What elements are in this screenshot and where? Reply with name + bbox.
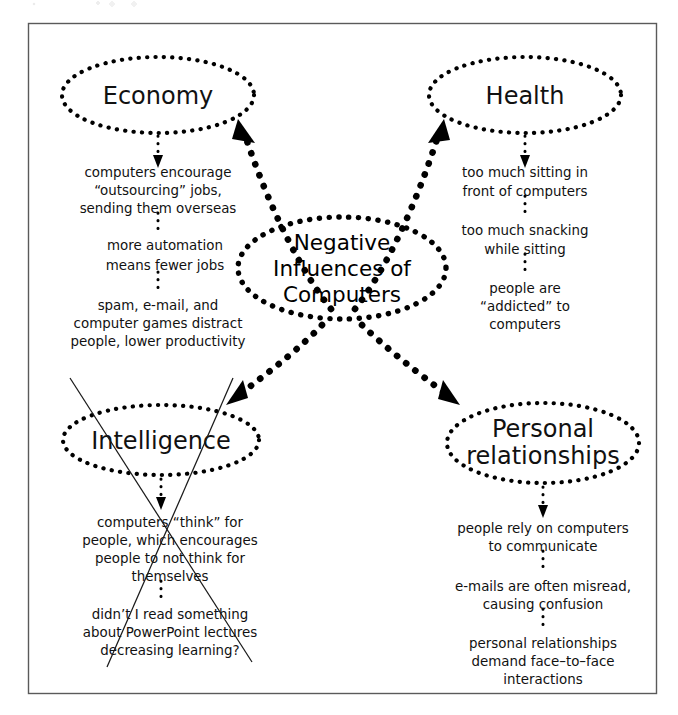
svg-text:to communicate: to communicate bbox=[488, 539, 597, 554]
center-label-line1: Negative bbox=[294, 230, 391, 255]
svg-text:people, which encourages: people, which encourages bbox=[82, 533, 257, 548]
node-label-economy: Economy bbox=[103, 82, 214, 110]
svg-text:front of computers: front of computers bbox=[463, 184, 588, 199]
node-label-personal-line2: relationships bbox=[466, 442, 620, 470]
svg-text:interactions: interactions bbox=[503, 672, 582, 687]
svg-text:“addicted” to: “addicted” to bbox=[480, 299, 570, 314]
svg-text:e-mails are often misread,: e-mails are often misread, bbox=[455, 579, 631, 594]
svg-text:about PowerPoint lectures: about PowerPoint lectures bbox=[83, 625, 257, 640]
svg-text:more automation: more automation bbox=[107, 238, 223, 253]
note-economy-1: computers encourage “outsourcing” jobs, … bbox=[80, 165, 237, 216]
concept-map-canvas: Economy Health Intelligence Personal rel… bbox=[0, 0, 678, 715]
node-label-health: Health bbox=[486, 82, 565, 110]
concept-map-svg: Economy Health Intelligence Personal rel… bbox=[0, 0, 678, 715]
svg-text:personal relationships: personal relationships bbox=[469, 636, 617, 651]
svg-text:people, lower productivity: people, lower productivity bbox=[71, 334, 246, 349]
note-health-3: people are “addicted” to computers bbox=[480, 281, 570, 332]
svg-text:too much snacking: too much snacking bbox=[461, 223, 588, 238]
svg-text:while sitting: while sitting bbox=[484, 242, 565, 257]
svg-text:people are: people are bbox=[489, 281, 560, 296]
svg-text:means fewer jobs: means fewer jobs bbox=[106, 258, 225, 273]
svg-text:“outsourcing” jobs,: “outsourcing” jobs, bbox=[94, 183, 222, 198]
node-label-personal-line1: Personal bbox=[492, 415, 594, 443]
svg-text:too much sitting in: too much sitting in bbox=[462, 165, 588, 180]
note-intelligence-2: didn’t I read something about PowerPoint… bbox=[83, 607, 257, 658]
svg-text:spam, e-mail, and: spam, e-mail, and bbox=[98, 298, 219, 313]
svg-text:sending them overseas: sending them overseas bbox=[80, 201, 237, 216]
svg-text:computer games distract: computer games distract bbox=[74, 316, 243, 331]
svg-text:computers encourage: computers encourage bbox=[84, 165, 231, 180]
svg-text:people rely on computers: people rely on computers bbox=[457, 521, 629, 536]
svg-text:computers: computers bbox=[489, 317, 561, 332]
svg-text:causing confusion: causing confusion bbox=[483, 597, 604, 612]
center-label-line3: Computers bbox=[283, 282, 401, 307]
center-label-line2: Influences of bbox=[273, 256, 411, 281]
svg-text:demand face–to–face: demand face–to–face bbox=[471, 654, 614, 669]
svg-text:decreasing learning?: decreasing learning? bbox=[100, 643, 239, 658]
svg-text:people to not think for: people to not think for bbox=[95, 551, 245, 566]
